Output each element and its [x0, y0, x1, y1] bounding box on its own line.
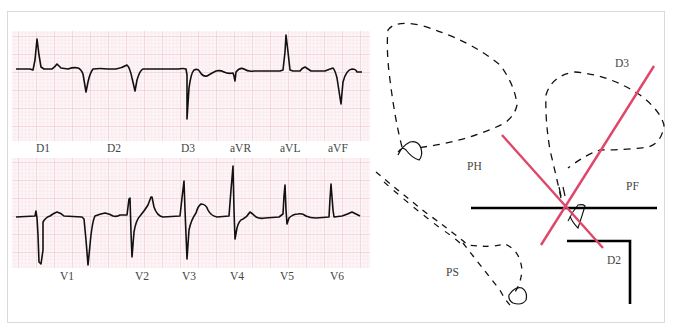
- lead-label-v4: V4: [230, 270, 244, 282]
- ecg-vcg-figure: D1 D2 D3 aVR aVL aVF V1 V2 V3 V4 V5 V6: [0, 0, 675, 330]
- plane-label-ps: PS: [446, 266, 459, 278]
- lead-label-avr: aVR: [230, 142, 251, 154]
- lead-label-v3: V3: [182, 270, 196, 282]
- lead-label-v6: V6: [330, 270, 344, 282]
- limb-leads-panel: D1 D2 D3 aVR aVL aVF: [12, 31, 370, 154]
- lead-label-avl: aVL: [280, 142, 300, 154]
- lead-label-avf: aVF: [328, 142, 348, 154]
- lead-label-d1: D1: [36, 142, 50, 154]
- axis-label-d2: D2: [607, 254, 621, 266]
- axis-label-d3: D3: [615, 57, 629, 69]
- precordial-leads-panel: V1 V2 V3 V4 V5 V6: [12, 158, 370, 282]
- lead-label-v2: V2: [135, 270, 149, 282]
- lead-label-v1: V1: [60, 270, 74, 282]
- lead-label-d3: D3: [181, 142, 195, 154]
- lead-label-v5: V5: [280, 270, 294, 282]
- plane-label-ph: PH: [467, 160, 482, 172]
- plane-label-pf: PF: [626, 180, 639, 192]
- lead-label-d2: D2: [107, 142, 121, 154]
